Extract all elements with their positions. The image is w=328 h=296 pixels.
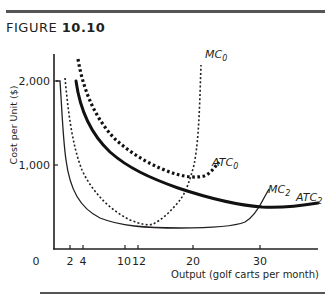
y-axis-title: Cost per Unit ($) (8, 86, 19, 165)
x-tick-label-2: 2 (67, 255, 74, 268)
mc2-curve (56, 81, 269, 228)
x-tick-label-20: 20 (186, 255, 200, 268)
cost-curves-chart: 2,000 1,000 0 2 4 10 12 20 30 Cost per U… (0, 0, 328, 296)
atc0-curve (78, 59, 219, 177)
mc2-label: MC2 (268, 183, 290, 198)
atc2-label: ATC2 (295, 191, 322, 206)
x-tick-label-4: 4 (80, 255, 87, 268)
x-tick-label-10: 10 (117, 255, 131, 268)
mc0-label: MC0 (205, 48, 227, 63)
x-tick-label-30: 30 (253, 255, 267, 268)
x-tick-label-12: 12 (132, 255, 146, 268)
atc0-label: ATC0 (211, 156, 238, 171)
mc0-curve (65, 65, 201, 225)
x-origin-label: 0 (33, 255, 40, 268)
bottom-rule (40, 292, 325, 294)
y-tick-label-1000: 1,000 (19, 159, 51, 172)
x-axis-title: Output (golf carts per month) (171, 269, 319, 280)
y-tick-label-2000: 2,000 (19, 75, 51, 88)
